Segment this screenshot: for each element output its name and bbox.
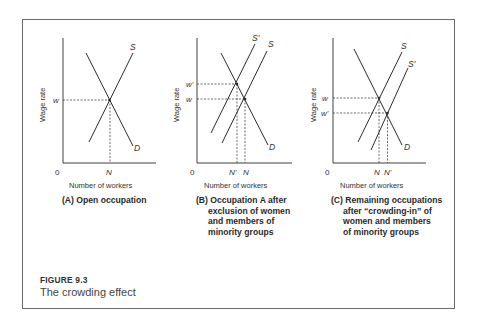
panel-b-s-label: S [268,39,274,49]
panel-c-caption-line: after “crowding-in” of [331,206,442,217]
panel-a-graph [63,38,156,163]
panel-a-supply-curve [89,53,133,142]
panel-b-caption-line: minority groups [196,227,290,238]
panel-b-caption-line: and members of [196,216,290,227]
panel-a-xlabel: Number of workers [69,181,133,190]
panel-c-caption-line: of minority groups [331,227,442,238]
panel-a-caption: (A) Open occupation [62,195,147,206]
panel-c-n-label: N [374,168,380,177]
panel-c-ylabel: Wage rate [309,88,318,122]
panel-b-w-prime-label: w' [186,80,194,89]
panel-b-xlabel: Number of workers [204,181,268,190]
panel-a-d-label: D [134,143,140,153]
panel-b-d-label: D [269,142,275,152]
panel-a-n-label: N [106,168,112,177]
panel-b-w-label: w [186,95,193,104]
figure-number: FIGURE 9.3 [40,275,88,285]
panel-c-caption-line: women and members [331,216,442,227]
figure-title: The crowding effect [40,286,136,298]
panel-c-xlabel: Number of workers [340,181,404,190]
panel-c-old-equilibrium [378,97,381,100]
panel-b-new-equilibrium [236,83,239,86]
panel-c-w-prime-label: w' [321,109,329,118]
panel-c-w-label: w [322,94,329,103]
panel-c-origin: 0 [325,168,330,177]
panel-c-s-prime-label: S' [408,59,416,69]
panel-b-ylabel: Wage rate [172,88,181,122]
panel-c-caption: (C) Remaining occupations after “crowdin… [331,195,442,237]
panel-b-origin: 0 [190,168,195,177]
panel-b-s-prime-label: S' [252,33,260,43]
panel-c-caption-line: (C) Remaining occupations [331,195,442,206]
panel-c-graph [333,38,426,163]
panel-a-ylabel: Wage rate [38,88,47,122]
panel-c-shifted-supply-curve [371,68,408,150]
panel-b-graph [197,38,292,163]
panel-a-origin: 0 [55,168,60,177]
panel-c-n-prime-label: N' [384,168,392,177]
panel-b-caption-line: exclusion of women [196,206,290,217]
panel-a-w-label: w [53,96,60,105]
panel-a-equilibrium-point [108,99,111,102]
panel-a-s-label: S [130,42,136,52]
panel-b-caption-line: (B) Occupation A after [196,195,290,206]
panel-c-new-equilibrium [386,112,389,115]
panel-b-n-label: N [243,168,249,177]
panel-a-caption-line: (A) Open occupation [62,195,147,205]
panel-b-n-prime-label: N' [229,168,237,177]
panel-b-caption: (B) Occupation A after exclusion of wome… [196,195,290,237]
panel-c-d-label: D [404,142,410,152]
panel-c-s-label: S [401,41,407,51]
panel-b-old-equilibrium [244,98,247,101]
